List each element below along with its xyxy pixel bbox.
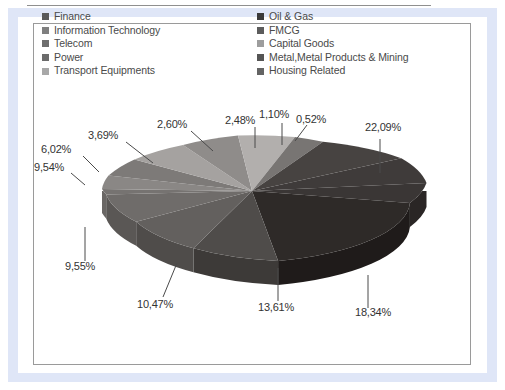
legend-label-fmcg: FMCG — [269, 24, 300, 38]
legend-item-information-technology[interactable]: Information Technology — [42, 24, 160, 38]
legend-swatch-power — [42, 54, 49, 61]
legend-swatch-capital-goods — [257, 40, 264, 47]
legend-swatch-metal-products-mining — [257, 54, 264, 61]
legend-item-power[interactable]: Power — [42, 51, 160, 65]
legend-label-transport-equipments: Transport Equipments — [54, 64, 155, 78]
legend-label-housing-related: Housing Related — [269, 64, 345, 78]
legend-column-right: Oil & Gas FMCG Capital Goods Metal,Metal… — [257, 10, 409, 78]
legend-label-capital-goods: Capital Goods — [269, 37, 334, 51]
chart-legend: Finance Information Technology Telecom P… — [27, 5, 431, 77]
legend-item-capital-goods[interactable]: Capital Goods — [257, 37, 409, 51]
legend-column-left: Finance Information Technology Telecom P… — [42, 10, 160, 78]
legend-item-telecom[interactable]: Telecom — [42, 37, 160, 51]
legend-swatch-information-technology — [42, 27, 49, 34]
legend-label-power: Power — [54, 51, 83, 65]
legend-item-transport-equipments[interactable]: Transport Equipments — [42, 64, 160, 78]
legend-swatch-telecom — [42, 40, 49, 47]
legend-item-metal-products-mining[interactable]: Metal,Metal Products & Mining — [257, 51, 409, 65]
legend-item-housing-related[interactable]: Housing Related — [257, 64, 409, 78]
legend-label-metal-products-mining: Metal,Metal Products & Mining — [269, 51, 409, 65]
legend-item-finance[interactable]: Finance — [42, 10, 160, 24]
legend-label-information-technology: Information Technology — [54, 24, 160, 38]
legend-label-oil-and-gas: Oil & Gas — [269, 10, 313, 24]
legend-item-oil-and-gas[interactable]: Oil & Gas — [257, 10, 409, 24]
legend-label-finance: Finance — [54, 10, 91, 24]
legend-item-fmcg[interactable]: FMCG — [257, 24, 409, 38]
legend-swatch-fmcg — [257, 27, 264, 34]
legend-swatch-transport-equipments — [42, 68, 49, 75]
screenshot-root: 22,09% 18,34% 13,61% 10,47% 9,55% 9,54% … — [0, 0, 505, 390]
legend-swatch-housing-related — [257, 68, 264, 75]
legend-label-telecom: Telecom — [54, 37, 92, 51]
legend-swatch-oil-and-gas — [257, 13, 264, 20]
legend-swatch-finance — [42, 13, 49, 20]
